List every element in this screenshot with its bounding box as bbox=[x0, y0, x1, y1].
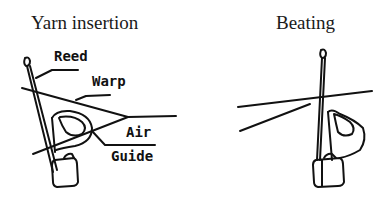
label-guide: Guide bbox=[111, 148, 153, 164]
loom-diagram bbox=[0, 0, 387, 206]
warp-top-right bbox=[238, 91, 372, 107]
warp-leader-line bbox=[76, 95, 110, 100]
base-block-left bbox=[52, 154, 78, 187]
label-air: Air bbox=[126, 124, 151, 140]
label-warp: Warp bbox=[92, 73, 126, 89]
label-reed: Reed bbox=[54, 48, 88, 64]
warp-right-line bbox=[128, 116, 176, 117]
reed-leader-line bbox=[36, 70, 78, 78]
reed-right bbox=[317, 49, 326, 160]
air-guide-right bbox=[328, 110, 364, 160]
air-guide-left bbox=[52, 111, 92, 152]
warp-bottom-right bbox=[240, 104, 310, 131]
